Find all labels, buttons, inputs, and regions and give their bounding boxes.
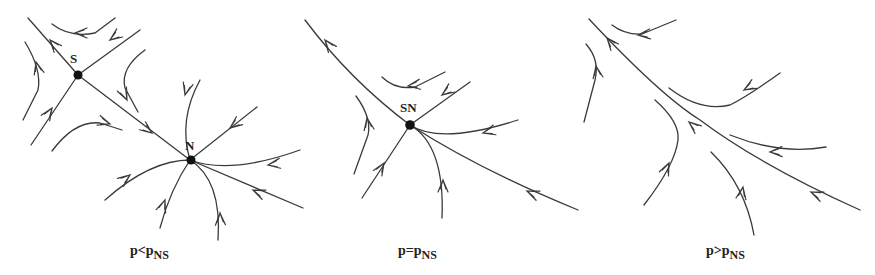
- trajectory: [190, 160, 218, 240]
- trajectory: [711, 152, 754, 235]
- trajectory: [669, 73, 780, 107]
- trajectory: [305, 20, 578, 210]
- trajectory: [28, 18, 190, 160]
- trajectory: [124, 50, 145, 112]
- phase-portrait-figure: S N p<pNS SN p=pNS: [0, 0, 875, 275]
- trajectory: [730, 135, 826, 149]
- caption-before: p<pNS: [130, 243, 169, 262]
- trajectory: [105, 160, 190, 200]
- trajectory: [410, 125, 442, 218]
- trajectory: [31, 30, 140, 145]
- saddle-label: S: [70, 51, 77, 66]
- trajectory: [23, 42, 39, 120]
- caption-at: p=pNS: [398, 243, 437, 262]
- trajectory: [160, 160, 190, 228]
- trajectory: [190, 160, 303, 208]
- trajectory: [190, 107, 257, 160]
- trajectory: [52, 18, 115, 34]
- trajectory: [354, 96, 369, 174]
- trajectory: [190, 150, 300, 166]
- panel-after-bifurcation: p>pNS: [584, 19, 860, 262]
- trajectory: [584, 44, 596, 122]
- saddle-node-point: [405, 120, 415, 130]
- trajectory: [52, 123, 122, 151]
- trajectory: [644, 100, 678, 205]
- trajectory: [382, 72, 445, 88]
- node-label: N: [185, 138, 195, 153]
- node-point-n: [187, 156, 196, 165]
- trajectory: [410, 120, 518, 134]
- panel-at-bifurcation: SN p=pNS: [305, 20, 578, 262]
- caption-after: p>pNS: [706, 243, 745, 262]
- trajectory: [589, 19, 860, 210]
- panel-before-bifurcation: S N p<pNS: [23, 18, 303, 262]
- saddle-node-label: SN: [400, 100, 417, 115]
- saddle-point-s: [74, 71, 83, 80]
